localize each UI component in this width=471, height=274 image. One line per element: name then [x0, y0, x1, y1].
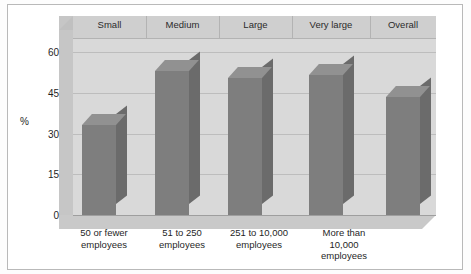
bar-front-face — [386, 97, 420, 215]
header-separator-2 — [219, 16, 220, 38]
y-axis-label: % — [20, 116, 29, 127]
bar-side-face — [343, 55, 354, 204]
gridline-60 — [73, 52, 436, 53]
bar-very-large — [309, 64, 343, 215]
bar-large — [228, 67, 262, 215]
y-tick-15: 15 — [25, 169, 59, 180]
bar-overall — [386, 86, 420, 215]
x-label-line-2: 10,000 — [302, 239, 386, 251]
y-tick-0: 0 — [25, 210, 59, 221]
x-label-small: 50 or fewer employees — [62, 227, 146, 250]
group-header-large: Large — [219, 19, 292, 30]
group-header-very-large: Very large — [292, 19, 370, 30]
bar-chart-3d: Small Medium Large Very large Overall 60… — [0, 0, 471, 274]
bar-side-face — [420, 77, 431, 204]
group-header-band: Small Medium Large Very large Overall — [73, 16, 436, 39]
header-separator-4 — [370, 16, 371, 38]
bar-front-face — [155, 71, 189, 215]
header-separator-1 — [146, 16, 147, 38]
group-header-overall: Overall — [370, 19, 436, 30]
header-separator-3 — [292, 16, 293, 38]
chart-figure: Small Medium Large Very large Overall 60… — [0, 0, 471, 274]
x-label-line-2: employees — [213, 239, 305, 251]
x-label-line-1: 50 or fewer — [62, 227, 146, 239]
bar-front-face — [228, 78, 262, 215]
x-label-line-1: 51 to 250 — [142, 227, 222, 239]
y-tick-45: 45 — [25, 88, 59, 99]
axis-baseline — [73, 215, 436, 216]
bar-small — [82, 114, 116, 215]
x-label-large: 251 to 10,000 employees — [213, 227, 305, 250]
plot-side-wall — [59, 16, 73, 215]
bar-side-face — [189, 51, 200, 204]
group-header-small: Small — [73, 19, 146, 30]
x-label-very-large: More than 10,000 employees — [302, 227, 386, 262]
bar-side-face — [262, 58, 273, 204]
x-label-line-1: 251 to 10,000 — [213, 227, 305, 239]
y-tick-30: 30 — [25, 129, 59, 140]
plot-side-wall-top — [59, 16, 73, 30]
bar-front-face — [309, 75, 343, 215]
bar-medium — [155, 60, 189, 215]
x-label-line-3: employees — [302, 250, 386, 262]
x-label-line-2: employees — [142, 239, 222, 251]
plot-floor-edge — [422, 215, 436, 229]
x-label-line-1: More than — [302, 227, 386, 239]
bar-front-face — [82, 125, 116, 215]
group-header-medium: Medium — [146, 19, 219, 30]
y-tick-60: 60 — [25, 47, 59, 58]
x-label-line-2: employees — [62, 239, 146, 251]
x-label-medium: 51 to 250 employees — [142, 227, 222, 250]
